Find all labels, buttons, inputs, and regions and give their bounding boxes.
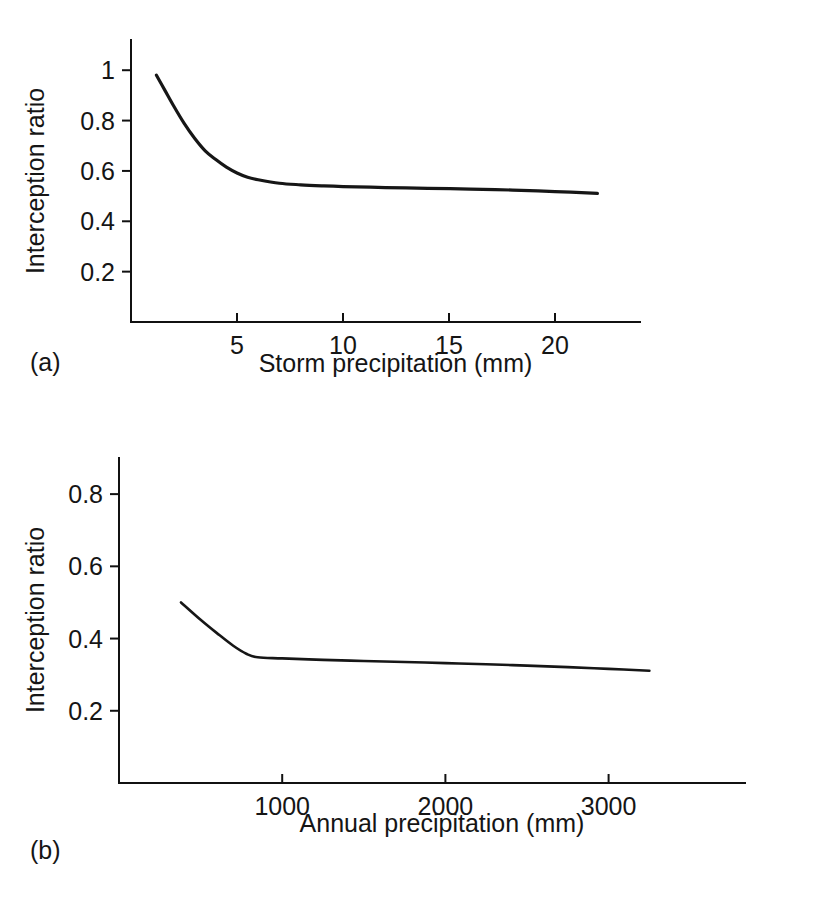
panel-label-b: (b) <box>30 836 61 865</box>
y-axis-title: Interception ratio <box>21 527 49 713</box>
chart-panel-a: 0.20.40.60.815101520Storm precipitation … <box>0 0 835 420</box>
chart-panel-b: 0.20.40.60.8100020003000Annual precipita… <box>0 420 835 910</box>
data-series-line <box>156 75 597 193</box>
y-axis-tick-label: 0.8 <box>80 107 115 135</box>
y-axis-title: Interception ratio <box>21 88 49 274</box>
y-axis-tick-label: 0.6 <box>68 552 103 580</box>
y-axis-tick-label: 0.4 <box>80 207 115 235</box>
chart-axes <box>119 458 745 783</box>
y-axis-tick-label: 0.2 <box>68 697 103 725</box>
y-axis-tick-label: 0.6 <box>80 157 115 185</box>
y-axis-tick-label: 0.4 <box>68 625 103 653</box>
line-chart-storm-precipitation: 0.20.40.60.815101520Storm precipitation … <box>0 0 835 420</box>
x-axis-tick-label: 20 <box>541 331 569 359</box>
x-axis-tick-label: 5 <box>230 331 244 359</box>
panel-label-a: (a) <box>30 348 61 377</box>
line-chart-annual-precipitation: 0.20.40.60.8100020003000Annual precipita… <box>0 420 835 910</box>
x-axis-title: Annual precipitation (mm) <box>300 809 585 837</box>
data-series-line <box>181 602 649 670</box>
chart-axes <box>131 40 640 322</box>
y-axis-tick-label: 0.8 <box>68 480 103 508</box>
y-axis-tick-label: 0.2 <box>80 258 115 286</box>
y-axis-tick-label: 1 <box>101 56 115 84</box>
x-axis-title: Storm precipitation (mm) <box>259 349 533 377</box>
x-axis-tick-label: 3000 <box>581 792 637 820</box>
